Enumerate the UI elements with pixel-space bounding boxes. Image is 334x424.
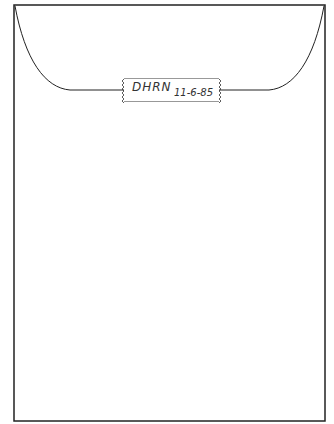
- envelope-drawing: [0, 0, 334, 424]
- flap-right-curve: [219, 6, 324, 90]
- envelope-outline: [14, 5, 325, 421]
- flap-left-curve: [15, 6, 124, 90]
- label-date: 11-6-85: [174, 87, 213, 98]
- envelope-label: DHRN 11-6-85: [124, 79, 219, 101]
- label-code: DHRN: [132, 80, 172, 94]
